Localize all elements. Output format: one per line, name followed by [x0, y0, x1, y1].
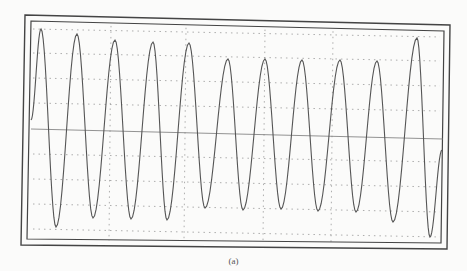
grid-line-horizontal — [33, 78, 440, 86]
grid-line-horizontal — [33, 204, 440, 212]
grid-line-horizontal — [33, 179, 440, 187]
oscilloscope-plot — [0, 0, 467, 271]
grid-line-vertical — [331, 31, 333, 243]
grid-lines — [33, 26, 440, 243]
figure-caption: (a) — [0, 256, 467, 266]
grid-line-horizontal — [33, 29, 440, 37]
grid-line-horizontal — [33, 103, 440, 111]
grid-line-horizontal — [33, 229, 440, 237]
center-baseline — [31, 129, 443, 139]
grid-line-horizontal — [33, 53, 440, 61]
